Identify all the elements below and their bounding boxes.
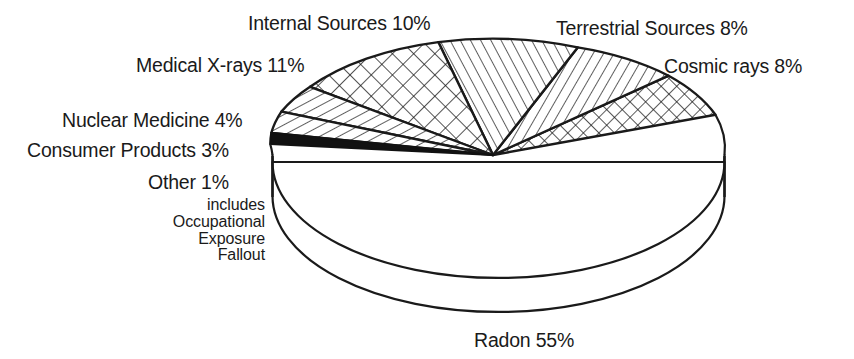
other-annotation-line-1: includes: [70, 197, 265, 214]
slice-label-internal-sources: Internal Sources 10%: [248, 13, 430, 33]
other-annotation-line-3: Exposure: [70, 231, 265, 248]
slice-label-other: Other 1%: [148, 172, 229, 192]
pie-chart-graphic: [0, 0, 854, 359]
pie-chart-figure: Internal Sources 10% Terrestrial Sources…: [0, 0, 854, 359]
other-annotation-line-4: Fallout: [70, 247, 265, 264]
slice-label-terrestrial-sources: Terrestrial Sources 8%: [556, 18, 748, 38]
other-annotation-line-2: Occupational: [70, 214, 265, 231]
slice-annotation-other: includes Occupational Exposure Fallout: [70, 197, 265, 264]
slice-label-cosmic-rays: Cosmic rays 8%: [664, 56, 802, 76]
slice-label-nuclear-medicine: Nuclear Medicine 4%: [62, 110, 242, 130]
slice-label-medical-xrays: Medical X-rays 11%: [136, 55, 304, 75]
slice-label-consumer-products: Consumer Products 3%: [27, 140, 229, 160]
slice-label-radon: Radon 55%: [474, 330, 574, 350]
